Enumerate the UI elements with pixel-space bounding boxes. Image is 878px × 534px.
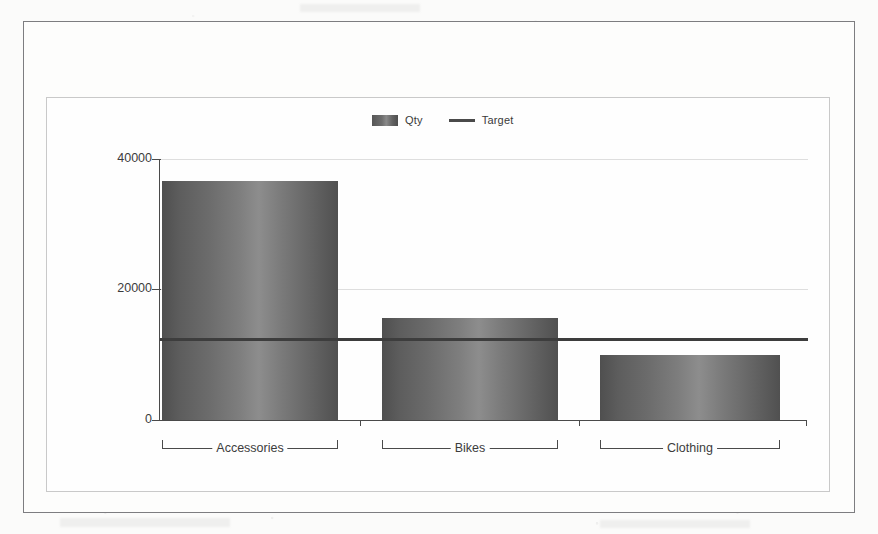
category-bracket-clothing: Clothing bbox=[600, 440, 780, 458]
gridline-40000 bbox=[160, 159, 808, 160]
legend-label-qty: Qty bbox=[405, 114, 423, 126]
category-label-accessories: Accessories bbox=[212, 440, 287, 456]
y-tick-mark-20000 bbox=[152, 289, 161, 290]
category-bracket-accessories: Accessories bbox=[162, 440, 338, 458]
y-tick-mark-40000 bbox=[152, 159, 161, 160]
bar-bikes[interactable] bbox=[382, 318, 558, 420]
y-tick-label-40000: 40000 bbox=[82, 151, 152, 165]
target-reference-line bbox=[160, 338, 808, 341]
category-bracket-bikes: Bikes bbox=[382, 440, 558, 458]
legend-label-target: Target bbox=[482, 114, 514, 126]
y-tick-label-0: 0 bbox=[82, 412, 152, 426]
x-tick-sep-1 bbox=[360, 420, 361, 426]
x-tick-end bbox=[806, 420, 807, 426]
legend-swatch-qty bbox=[372, 115, 398, 126]
x-axis-line bbox=[159, 420, 807, 421]
category-label-bikes: Bikes bbox=[451, 440, 490, 456]
chart-legend: Qty Target bbox=[372, 112, 514, 128]
x-tick-sep-2 bbox=[579, 420, 580, 426]
category-label-clothing: Clothing bbox=[663, 440, 717, 456]
chart-plot-area: Qty Target 40000 20000 0 Accessories Bik… bbox=[0, 0, 878, 534]
legend-line-target bbox=[449, 119, 475, 122]
y-axis-line bbox=[159, 159, 160, 421]
y-tick-label-20000: 20000 bbox=[82, 281, 152, 295]
y-tick-mark-0 bbox=[152, 420, 161, 421]
bar-accessories[interactable] bbox=[162, 181, 338, 420]
bar-clothing[interactable] bbox=[600, 355, 780, 420]
